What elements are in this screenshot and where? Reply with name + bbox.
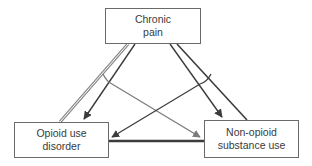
node-opioid-use-disorder: Opioid use disorder: [14, 122, 109, 158]
relationship-diagram: Chronic pain Opioid use disorder Non-opi…: [0, 0, 312, 166]
edge-branch-left-to-nosu: [103, 74, 200, 137]
node-opioid-use-disorder-label: Opioid use disorder: [36, 127, 86, 153]
node-chronic-pain: Chronic pain: [105, 8, 201, 44]
edge-pain-nosu-outer: [177, 44, 247, 120]
edge-pain-nosu-arrow: [170, 44, 222, 117]
node-non-opioid-substance-use-label: Non-opioid substance use: [218, 126, 286, 152]
node-non-opioid-substance-use: Non-opioid substance use: [204, 120, 299, 158]
edge-branch-right-to-oud: [112, 74, 211, 137]
node-chronic-pain-label: Chronic pain: [135, 13, 171, 39]
edge-pain-oud-outer: [60, 44, 128, 122]
edge-pain-oud-arrow: [84, 44, 135, 119]
